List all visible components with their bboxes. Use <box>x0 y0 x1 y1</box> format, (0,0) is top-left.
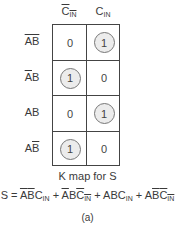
subscript: IN <box>126 195 133 202</box>
equation-term: ABCIN <box>103 189 133 201</box>
circled-one: 1 <box>94 103 115 124</box>
variable: CIN <box>62 5 77 17</box>
variable: A <box>25 71 32 83</box>
cell-value: 0 <box>67 37 73 49</box>
kmap-cell: 1 <box>87 25 121 61</box>
kmap-cell: 1 <box>53 132 87 168</box>
plus-sign: + <box>91 189 103 201</box>
subscript: IN <box>103 11 110 18</box>
kmap-cell: 0 <box>53 96 87 132</box>
kmap-cell: 0 <box>53 25 87 61</box>
equation-term: ABCIN <box>62 189 92 201</box>
kmap-cell: 1 <box>53 61 87 97</box>
variable: B <box>27 189 34 201</box>
variable: CIN <box>96 5 111 17</box>
circled-one: 1 <box>60 139 81 160</box>
subscript: IN <box>43 195 50 202</box>
column-header: CIN <box>52 5 86 18</box>
column-header: CIN <box>86 5 120 18</box>
kmap-cell: 0 <box>87 132 121 168</box>
variable: CIN <box>159 189 174 201</box>
circled-one: 1 <box>94 32 115 53</box>
variable: A <box>62 189 69 201</box>
row-header: AB <box>14 142 50 154</box>
row-header: AB <box>14 35 50 47</box>
variable: CIN <box>35 189 50 201</box>
variable: A <box>25 106 32 118</box>
row-header: AB <box>14 106 50 118</box>
equation-term: ABCIN <box>145 189 175 201</box>
row-header: AB <box>14 71 50 83</box>
variable: B <box>32 35 39 47</box>
plus-sign: + <box>50 189 62 201</box>
variable: CIN <box>118 189 133 201</box>
variable: A <box>25 142 32 154</box>
cell-value: 0 <box>67 108 73 120</box>
sum-equation: S = ABCIN + ABCIN + ABCIN + ABCIN <box>0 189 175 202</box>
kmap-caption: K map for S <box>0 170 175 182</box>
equation-lhs: S = <box>1 189 20 201</box>
cell-value: 0 <box>101 143 107 155</box>
variable: B <box>32 142 39 154</box>
circled-one: 1 <box>60 68 81 89</box>
kmap-cell: 1 <box>87 96 121 132</box>
subscript: IN <box>69 11 76 18</box>
variable: B <box>110 189 117 201</box>
kmap-cell: 0 <box>87 61 121 97</box>
figure-label: (a) <box>0 212 175 223</box>
variable: A <box>25 35 32 47</box>
variable: B <box>32 71 39 83</box>
variable: A <box>145 189 152 201</box>
equation-term: ABCIN <box>20 189 50 201</box>
variable: B <box>32 106 39 118</box>
subscript: IN <box>167 195 174 202</box>
kmap-grid: 01100110 <box>52 24 120 166</box>
variable: CIN <box>76 189 91 201</box>
plus-sign: + <box>133 189 145 201</box>
cell-value: 0 <box>101 72 107 84</box>
